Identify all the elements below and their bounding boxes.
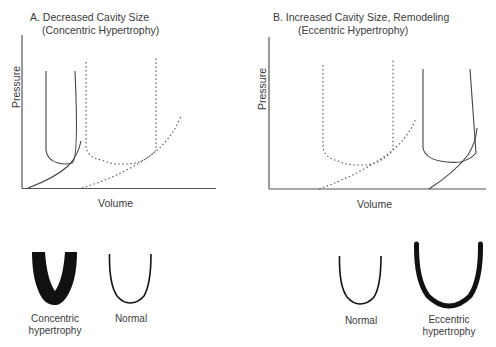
panel-a-concentric-loop xyxy=(28,71,81,188)
normal-b-label: Normal xyxy=(340,315,382,327)
panel-a-normal-loop xyxy=(82,58,181,188)
panel-b-eccentric-loop xyxy=(423,69,477,189)
panel-b-normal-loop xyxy=(319,60,416,189)
concentric-hypertrophy-heart-icon xyxy=(32,252,77,305)
panel-a-axes xyxy=(22,35,216,189)
panel-b-axes xyxy=(269,37,486,189)
normal-a-label: Normal xyxy=(110,313,152,325)
normal-heart-a-icon xyxy=(109,254,151,303)
eccentric-hypertrophy-label: Eccentric hypertrophy xyxy=(416,314,482,338)
eccentric-hypertrophy-heart-icon xyxy=(416,244,480,306)
concentric-hypertrophy-label: Concentric hypertrophy xyxy=(22,313,88,337)
pv-loop-diagrams xyxy=(0,0,496,347)
normal-heart-b-icon xyxy=(339,256,381,304)
